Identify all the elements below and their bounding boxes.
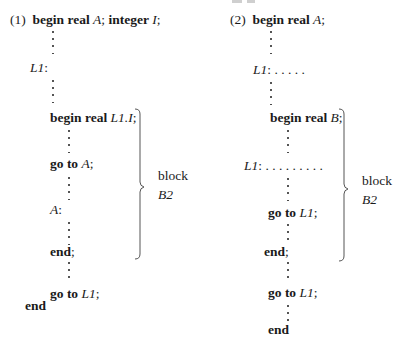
semicolon: ;	[321, 12, 325, 27]
vertical-ellipsis	[287, 224, 289, 246]
goto-target-l1: L1	[82, 286, 96, 301]
keyword-begin: begin	[50, 110, 82, 125]
brace-label-block: block	[362, 173, 392, 189]
vertical-ellipsis	[68, 262, 70, 284]
colon: :	[58, 202, 62, 217]
keyword-end: end	[268, 322, 289, 337]
outer-end-line: end	[268, 322, 289, 338]
keyword-begin: begin	[270, 110, 302, 125]
semicolon: ;	[71, 244, 75, 259]
goto-a-line: go to A;	[50, 156, 94, 172]
identifier-l1-i: L1.I	[111, 110, 133, 125]
colon-ellipsis: : . . . . . . . . .	[258, 158, 323, 173]
keyword-go-to: go to	[50, 286, 78, 301]
keyword-real: real	[85, 110, 107, 125]
label-line-a: A:	[50, 202, 62, 218]
inner-label-line-l1: L1: . . . . . . . . .	[244, 158, 323, 174]
label-a: A	[50, 202, 58, 217]
vertical-ellipsis	[287, 178, 289, 207]
keyword-end: end	[264, 244, 285, 259]
vertical-ellipsis	[52, 80, 54, 109]
semicolon: ;	[314, 205, 318, 220]
semicolon: ;	[101, 12, 105, 27]
keyword-end: end	[50, 244, 71, 259]
label-line-l1: L1: . . . . .	[253, 62, 305, 78]
keyword-real: real	[287, 12, 309, 27]
vertical-ellipsis	[52, 31, 54, 60]
colon: :	[44, 60, 48, 75]
goto-l1-outer-line: go to L1;	[268, 285, 318, 301]
clipped-text-fragment	[232, 0, 242, 3]
colon-ellipsis: : . . . . .	[267, 62, 305, 77]
brace-label-block: block	[158, 168, 188, 184]
vertical-ellipsis	[68, 130, 70, 159]
vertical-ellipsis	[270, 31, 272, 60]
example-number: (2)	[230, 12, 246, 27]
goto-l1-line: go to L1;	[50, 286, 100, 302]
example-1-header-line: (1) begin real A; integer I;	[10, 12, 161, 28]
semicolon: ;	[90, 156, 94, 171]
clipped-text-fragment	[247, 0, 255, 3]
inner-end-line: end;	[50, 244, 75, 260]
keyword-begin: begin	[253, 12, 285, 27]
semicolon: ;	[314, 285, 318, 300]
keyword-end: end	[25, 298, 46, 313]
goto-l1-inner-line: go to L1;	[268, 205, 318, 221]
example-number: (1)	[10, 12, 26, 27]
vertical-ellipsis	[287, 262, 289, 284]
label-l1: L1	[30, 60, 44, 75]
inner-begin-line: begin real B;	[270, 110, 343, 126]
right-brace-icon	[134, 108, 148, 260]
label-l1: L1	[253, 62, 267, 77]
right-brace-icon	[338, 108, 352, 262]
semicolon: ;	[285, 244, 289, 259]
inner-begin-line: begin real L1.I;	[50, 110, 136, 126]
vertical-ellipsis	[270, 82, 272, 111]
goto-target-l1: L1	[300, 285, 314, 300]
keyword-go-to: go to	[268, 205, 296, 220]
outer-end-line: end	[25, 298, 46, 314]
keyword-real: real	[67, 12, 89, 27]
example-2-header-line: (2) begin real A;	[230, 12, 325, 28]
brace-label-b2: B2	[158, 187, 173, 203]
vertical-ellipsis	[287, 130, 289, 159]
label-l1: L1	[244, 158, 258, 173]
vertical-ellipsis	[68, 177, 70, 206]
keyword-real: real	[305, 110, 327, 125]
goto-target-l1: L1	[300, 205, 314, 220]
label-line-l1: L1:	[30, 60, 48, 76]
semicolon: ;	[157, 12, 161, 27]
keyword-integer: integer	[108, 12, 148, 27]
goto-target-a: A	[82, 156, 90, 171]
brace-label-b2: B2	[362, 192, 377, 208]
inner-end-line: end;	[264, 244, 289, 260]
semicolon: ;	[96, 286, 100, 301]
keyword-go-to: go to	[50, 156, 78, 171]
keyword-begin: begin	[33, 12, 65, 27]
keyword-go-to: go to	[268, 285, 296, 300]
